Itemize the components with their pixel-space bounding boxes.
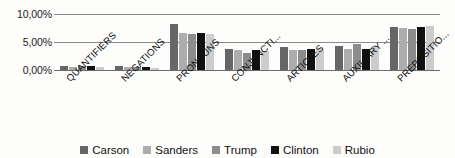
legend-label: Clinton — [283, 144, 319, 156]
legend-label: Sanders — [155, 144, 198, 156]
legend-item[interactable]: Trump — [212, 144, 257, 156]
bar — [390, 27, 398, 70]
bar — [280, 47, 288, 70]
legend-swatch-icon — [143, 146, 151, 154]
legend-item[interactable]: Sanders — [143, 144, 198, 156]
legend-label: Rubio — [345, 144, 375, 156]
bar — [170, 24, 178, 70]
legend-item[interactable]: Rubio — [333, 144, 375, 156]
legend-swatch-icon — [212, 146, 220, 154]
y-axis-tick-10: 10,00% — [4, 8, 52, 20]
legend-label: Trump — [224, 144, 257, 156]
legend-swatch-icon — [333, 146, 341, 154]
chart-legend: CarsonSandersTrumpClintonRubio — [0, 144, 455, 156]
bar — [225, 49, 233, 70]
legend-item[interactable]: Carson — [80, 144, 129, 156]
legend-label: Carson — [92, 144, 129, 156]
legend-item[interactable]: Clinton — [271, 144, 319, 156]
x-axis-labels: QUANTIFIERSNEGATIONSPRONOUNSCONJUNCTI...… — [0, 70, 455, 136]
bar — [335, 46, 343, 70]
legend-swatch-icon — [80, 146, 88, 154]
bar-chart: 10,00% 5,00% 0,00% QUANTIFIERSNEGATIONSP… — [0, 0, 455, 158]
y-axis-tick-5: 5,00% — [4, 36, 52, 48]
legend-swatch-icon — [271, 146, 279, 154]
